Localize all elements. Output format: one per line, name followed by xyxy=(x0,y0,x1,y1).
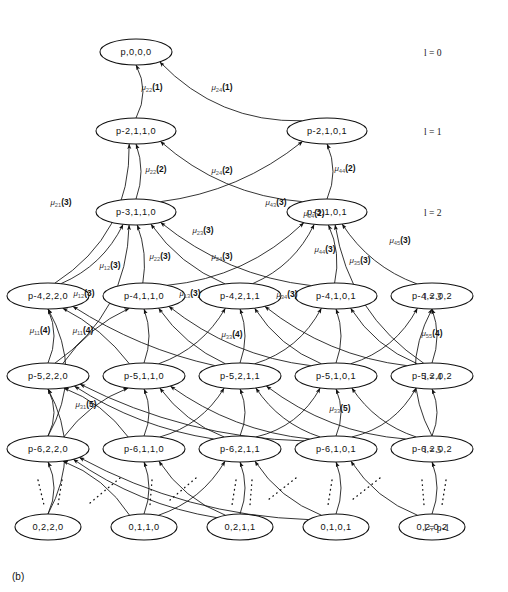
state-node[interactable]: p-4,1,1,0 xyxy=(103,283,185,309)
continuation-dotted-edge xyxy=(250,480,252,505)
state-node[interactable]: 0,2,1,1 xyxy=(207,514,273,540)
state-node-label: 0,1,0,1 xyxy=(321,522,352,532)
state-node-label: p-2,1,1,0 xyxy=(116,126,156,136)
transition-probability-label: μ22(3) xyxy=(148,251,170,262)
state-node[interactable]: p-6,1,0,1 xyxy=(295,436,377,462)
state-node-label: p-6,1,1,0 xyxy=(124,444,164,454)
state-node[interactable]: p-4,1,0,1 xyxy=(295,283,377,309)
state-node[interactable]: p-5,1,1,0 xyxy=(103,363,185,389)
transition-edge xyxy=(328,225,337,283)
continuation-dotted-edge xyxy=(58,480,62,505)
transition-edge xyxy=(432,389,437,436)
state-node[interactable]: p-5,2,1,1 xyxy=(199,363,281,389)
transition-probability-label: μ45(3) xyxy=(388,235,410,246)
transition-probability-label: μ11(4) xyxy=(29,325,51,336)
state-node[interactable]: p-6,1,1,0 xyxy=(103,436,185,462)
transition-probability-label: μ43(3) xyxy=(264,197,286,208)
state-node[interactable]: p-4,2,1,1 xyxy=(199,283,281,309)
transition-edge xyxy=(74,386,213,439)
transition-edge xyxy=(64,388,128,437)
level-label: l = 3 xyxy=(424,291,442,302)
state-node[interactable]: p-6,2,1,1 xyxy=(199,436,281,462)
transition-edge xyxy=(64,388,128,437)
state-node[interactable]: p-2,1,1,0 xyxy=(96,118,176,144)
diagram-canvas: p,0,0,0p-2,1,1,0p-2,1,0,1p-3,1,1,0p-3,1,… xyxy=(0,0,508,592)
transition-probability-label: μ12(3) xyxy=(98,260,120,271)
transition-edge xyxy=(63,308,130,364)
transition-probability-label: μ44(2) xyxy=(333,163,355,174)
state-node[interactable]: p-2,1,0,1 xyxy=(287,118,367,144)
transition-probability-label: μ24(1) xyxy=(210,82,232,93)
transition-edge xyxy=(327,144,333,199)
transition-edge xyxy=(61,224,123,283)
state-node-label: p-5,2,1,1 xyxy=(220,371,260,381)
state-node-label: p-4,1,1,0 xyxy=(124,291,164,301)
transition-edge xyxy=(265,306,407,365)
state-node[interactable]: p,0,0,0 xyxy=(100,39,172,65)
continuation-dotted-edge xyxy=(328,480,332,505)
state-node[interactable]: p-6,2,2,0 xyxy=(7,436,89,462)
state-node-label: p-4,2,2,0 xyxy=(28,291,68,301)
transition-edge xyxy=(63,461,130,515)
transition-probability-label: μ24(2) xyxy=(210,165,232,176)
transition-probability-label: μ22(2) xyxy=(144,164,166,175)
level-label: l = 1 xyxy=(424,126,442,137)
transition-edge xyxy=(336,462,341,514)
state-node[interactable]: 0,1,1,0 xyxy=(111,514,177,540)
transition-probability-label: μ22(1) xyxy=(140,82,162,93)
state-node[interactable]: 0,1,0,1 xyxy=(303,514,369,540)
state-node-label: p-3,1,1,0 xyxy=(116,207,156,217)
state-node[interactable]: 0,2,2,0 xyxy=(15,514,81,540)
transition-edge xyxy=(159,308,226,364)
transition-edge xyxy=(342,224,417,284)
transition-edge xyxy=(137,225,144,283)
transition-edge xyxy=(158,461,225,515)
state-node-label: p-6,2,1,1 xyxy=(220,444,260,454)
transition-probability-label: μ21(3) xyxy=(49,197,71,208)
transition-edge xyxy=(351,308,418,364)
transition-edge xyxy=(336,309,341,363)
transition-edge xyxy=(256,388,320,437)
state-node[interactable]: p-3,1,1,0 xyxy=(96,199,176,225)
state-node[interactable]: p-5,1,0,1 xyxy=(295,363,377,389)
transition-edge xyxy=(255,461,322,515)
transition-edge xyxy=(159,308,226,364)
state-node-label: p-5,1,0,1 xyxy=(316,371,356,381)
state-node-label: 0,1,1,0 xyxy=(129,522,160,532)
transition-edge xyxy=(73,306,215,365)
transition-edge xyxy=(48,309,54,363)
state-node[interactable]: p-3,1,0,1 xyxy=(287,199,367,225)
transition-edge xyxy=(256,388,320,437)
transition-edge xyxy=(167,223,304,286)
transition-probability-label: μ12(3) xyxy=(72,288,94,299)
transition-probability-label: μ34(3) xyxy=(275,289,297,300)
trellis-diagram-svg: p,0,0,0p-2,1,1,0p-2,1,0,1p-3,1,1,0p-3,1,… xyxy=(0,0,508,592)
state-node-label: p-2,1,0,1 xyxy=(307,126,347,136)
level-label: l = p-1 xyxy=(424,522,450,533)
continuation-dotted-edge xyxy=(268,478,296,500)
continuation-dotted-edge xyxy=(422,480,424,505)
level-label: l = 0 xyxy=(424,47,442,58)
state-node-label: p-5,2,2,0 xyxy=(28,371,68,381)
transition-probability-label: μ33(5) xyxy=(328,403,350,414)
transition-edge xyxy=(161,222,312,285)
continuation-dotted-edge xyxy=(442,480,446,505)
figure-caption: (b) xyxy=(12,571,24,582)
transition-edge xyxy=(48,389,54,436)
transition-edge xyxy=(351,461,418,515)
state-node-label: 0,2,2,0 xyxy=(33,522,64,532)
continuation-dotted-edge xyxy=(352,478,380,500)
state-node-label: p,0,0,0 xyxy=(121,47,152,57)
state-node[interactable]: p-5,2,2,0 xyxy=(7,363,89,389)
transition-probability-label: μ23(3) xyxy=(191,225,213,236)
transition-probability-label: μ24(3) xyxy=(210,251,232,262)
transition-probability-label: μ13(3) xyxy=(178,288,200,299)
transition-probability-label: μ44(3) xyxy=(313,244,335,255)
transition-edge xyxy=(352,388,416,437)
level-label: l = 4 xyxy=(424,371,442,382)
transition-edge xyxy=(240,389,245,436)
continuation-dotted-edge xyxy=(90,478,120,503)
level-label: l = 2 xyxy=(424,207,442,218)
transition-edge xyxy=(144,309,149,363)
transition-edge xyxy=(255,308,322,364)
